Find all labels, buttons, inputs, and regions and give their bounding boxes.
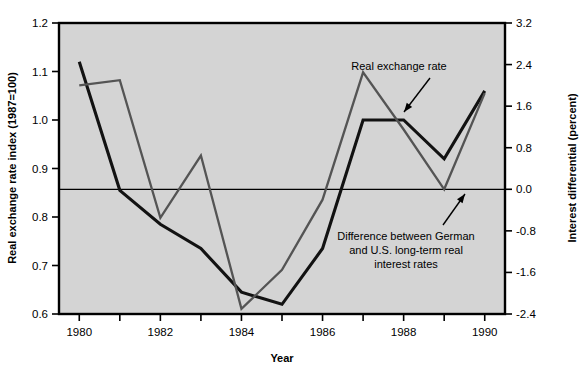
x-tick-label: 1984 xyxy=(229,326,255,338)
y-tick-label: 0.7 xyxy=(32,260,48,272)
x-tick-label: 1982 xyxy=(148,326,174,338)
x-axis-title: Year xyxy=(270,352,294,364)
annotation-text-line: Difference between German xyxy=(337,230,474,242)
x-tick-label: 1988 xyxy=(391,326,417,338)
y2-tick-label: 2.4 xyxy=(516,59,533,71)
x-tick-label: 1980 xyxy=(66,326,92,338)
chart-figure: 198019821984198619881990 0.60.70.80.91.0… xyxy=(0,0,588,375)
annotation-text-line: Real exchange rate xyxy=(351,60,446,72)
annotation-text-line: interest rates xyxy=(374,258,438,270)
y-tick-label: 1.1 xyxy=(32,66,48,78)
y2-tick-label: -2.4 xyxy=(516,308,536,320)
x-tick-label: 1990 xyxy=(472,326,498,338)
y2-tick-label: 0.0 xyxy=(516,183,532,195)
y-axis-left-title: Real exchange rate index (1987=100) xyxy=(6,72,18,264)
annotation-text-line: and U.S. long-term real xyxy=(349,244,463,256)
y2-tick-label: -1.6 xyxy=(516,266,536,278)
y2-tick-label: 0.8 xyxy=(516,142,532,154)
y-tick-label: 0.6 xyxy=(32,308,48,320)
y-tick-label: 0.8 xyxy=(32,211,48,223)
y-tick-label: 1.2 xyxy=(32,17,48,29)
line-chart: 198019821984198619881990 0.60.70.80.91.0… xyxy=(0,0,588,375)
y2-tick-label: -0.8 xyxy=(516,225,536,237)
y-tick-label: 1.0 xyxy=(32,114,48,126)
x-tick-label: 1986 xyxy=(310,326,336,338)
y2-tick-label: 1.6 xyxy=(516,100,532,112)
y-axis-right-title: Interest differential (percent) xyxy=(566,93,578,242)
y-tick-label: 0.9 xyxy=(32,163,48,175)
y2-tick-label: 3.2 xyxy=(516,17,532,29)
